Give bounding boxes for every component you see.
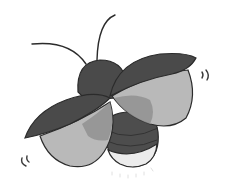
glow-rays-icon (112, 168, 153, 178)
firefly-illustration: Grayscale illustration of a flying firef… (0, 0, 226, 184)
firefly-icon (0, 0, 226, 184)
antenna-icon (32, 15, 115, 64)
